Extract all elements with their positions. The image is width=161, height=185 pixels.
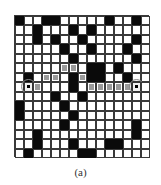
grid-cell-path xyxy=(60,63,69,72)
grid-cell-obstacle xyxy=(33,130,42,139)
grid-cell-obstacle xyxy=(87,73,96,82)
grid-cell-free xyxy=(87,120,96,129)
grid-cell-free xyxy=(33,111,42,120)
grid-cell-free xyxy=(123,92,132,101)
grid-cell-free xyxy=(15,149,24,158)
grid-cell-free xyxy=(60,25,69,34)
grid-cell-free xyxy=(60,54,69,63)
grid-cell-obstacle xyxy=(60,44,69,53)
grid-cell-free xyxy=(51,82,60,91)
grid-cell-free xyxy=(141,63,150,72)
grid-cell-free xyxy=(60,16,69,25)
grid-cell-free xyxy=(114,111,123,120)
grid-cell-path xyxy=(96,82,105,91)
grid-cell-free xyxy=(51,63,60,72)
grid-cell-free xyxy=(78,111,87,120)
grid-cell-free xyxy=(42,139,51,148)
grid-cell-free xyxy=(132,111,141,120)
grid-cell-free xyxy=(96,111,105,120)
grid-cell-free xyxy=(114,54,123,63)
grid-cell-free xyxy=(123,16,132,25)
grid-cell-path xyxy=(42,73,51,82)
grid-cell-free xyxy=(24,92,33,101)
grid-cell-free xyxy=(87,92,96,101)
grid-cell-path xyxy=(87,82,96,91)
grid-cell-free xyxy=(114,35,123,44)
grid-cell-obstacle xyxy=(114,63,123,72)
grid-cell-free xyxy=(51,120,60,129)
grid-cell-free xyxy=(132,63,141,72)
grid-cell-free xyxy=(105,73,114,82)
grid-cell-obstacle xyxy=(69,139,78,148)
grid-cell-free xyxy=(114,130,123,139)
grid-cell-free xyxy=(141,149,150,158)
grid-cell-obstacle xyxy=(33,139,42,148)
grid-cell-free xyxy=(24,130,33,139)
grid-cell-free xyxy=(78,139,87,148)
grid-cell-free xyxy=(105,120,114,129)
grid-cell-free xyxy=(69,92,78,101)
grid-cell-obstacle xyxy=(69,25,78,34)
grid-cell-free xyxy=(105,44,114,53)
grid-cell-obstacle xyxy=(33,25,42,34)
grid-cell-free xyxy=(69,130,78,139)
grid-cell-free xyxy=(24,35,33,44)
grid-cell-free xyxy=(24,120,33,129)
grid-cell-path xyxy=(105,82,114,91)
grid-cell-obstacle xyxy=(87,149,96,158)
grid-cell-free xyxy=(105,25,114,34)
grid-cell-obstacle xyxy=(114,139,123,148)
grid-cell-free xyxy=(123,63,132,72)
grid-cell-free xyxy=(15,44,24,53)
grid-cell-obstacle xyxy=(96,73,105,82)
grid-cell-free xyxy=(15,63,24,72)
grid-cell-free xyxy=(24,111,33,120)
grid-cell-free xyxy=(141,130,150,139)
grid-cell-obstacle xyxy=(87,63,96,72)
grid-cell-free xyxy=(33,101,42,110)
grid-cell-obstacle xyxy=(78,149,87,158)
grid-cell-free xyxy=(132,44,141,53)
occupancy-grid xyxy=(14,15,149,157)
grid-cell-free xyxy=(141,111,150,120)
grid-cell-free xyxy=(69,35,78,44)
grid-cell-free xyxy=(96,25,105,34)
grid-cell-obstacle xyxy=(69,73,78,82)
grid-cell-free xyxy=(78,16,87,25)
grid-cell-free xyxy=(96,92,105,101)
grid-cell-free xyxy=(42,63,51,72)
grid-cell-free xyxy=(42,101,51,110)
grid-cell-free xyxy=(15,35,24,44)
grid-cell-free xyxy=(87,139,96,148)
grid-cell-free xyxy=(33,63,42,72)
grid-cell-free xyxy=(69,101,78,110)
grid-cell-obstacle xyxy=(15,111,24,120)
grid-cell-free xyxy=(33,149,42,158)
grid-cell-obstacle xyxy=(69,82,78,91)
grid-cell-free xyxy=(42,35,51,44)
grid-cell-free xyxy=(114,73,123,82)
grid-cell-free xyxy=(87,101,96,110)
grid-cell-free xyxy=(123,54,132,63)
grid-cell-free xyxy=(96,35,105,44)
grid-cell-free xyxy=(42,130,51,139)
grid-cell-free xyxy=(42,54,51,63)
grid-cell-free xyxy=(105,92,114,101)
grid-cell-path xyxy=(69,63,78,72)
grid-cell-free xyxy=(105,35,114,44)
grid-cell-free xyxy=(51,54,60,63)
grid-cell-free xyxy=(42,92,51,101)
grid-cell-free xyxy=(132,139,141,148)
grid-cell-free xyxy=(132,25,141,34)
grid-cell-obstacle xyxy=(51,16,60,25)
grid-cell-free xyxy=(78,63,87,72)
grid-cell-free xyxy=(123,25,132,34)
grid-cell-free xyxy=(42,120,51,129)
grid-cell-free xyxy=(141,139,150,148)
grid-cell-free xyxy=(96,149,105,158)
grid-cell-obstacle xyxy=(69,111,78,120)
grid-cell-free xyxy=(51,111,60,120)
grid-cell-free xyxy=(123,149,132,158)
grid-cell-free xyxy=(123,120,132,129)
grid-cell-free xyxy=(123,35,132,44)
